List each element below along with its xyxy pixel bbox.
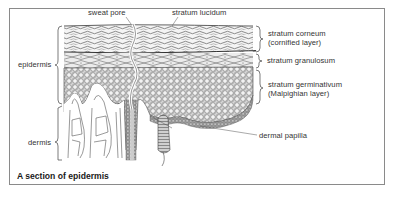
- label-sweat-pore: sweat pore: [88, 9, 126, 18]
- label-stratum-lucidum: stratum lucidum: [172, 9, 226, 18]
- label-stratum-germinativum-line2: (Malpighian layer): [268, 90, 342, 99]
- label-dermal-papilla: dermal papilla: [259, 132, 307, 141]
- label-epidermis: epidermis: [18, 61, 51, 70]
- figure-caption: A section of epidermis: [17, 171, 109, 181]
- label-stratum-germinativum: stratum germinativum (Malpighian layer): [268, 81, 342, 98]
- stratum-corneum-region: [64, 26, 253, 52]
- stratum-granulosum-region: [64, 53, 253, 68]
- label-stratum-corneum-line2: (cornified layer): [268, 39, 326, 48]
- sweat-duct: [158, 115, 170, 153]
- label-dermis: dermis: [28, 139, 51, 148]
- label-stratum-corneum: stratum corneum (cornified layer): [268, 30, 326, 47]
- label-stratum-granulosum: stratum granulosum: [267, 57, 335, 66]
